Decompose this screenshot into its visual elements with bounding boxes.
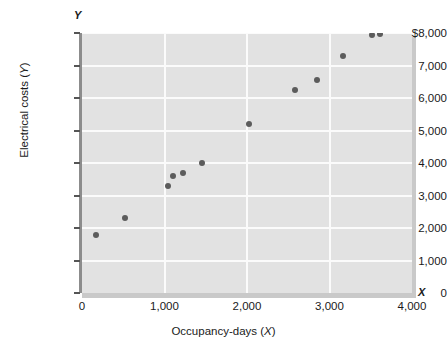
y-tick-label: 5,000 — [373, 125, 447, 137]
y-tick-mark — [74, 260, 80, 262]
data-point — [122, 215, 128, 221]
data-point — [340, 53, 346, 59]
y-tick-label: 0 — [373, 287, 447, 299]
x-tick-label: 3,000 — [315, 300, 344, 312]
y-tick-label: 2,000 — [373, 222, 447, 234]
y-tick-mark — [74, 162, 80, 164]
x-axis-line — [82, 293, 416, 298]
y-tick-label: 7,000 — [373, 60, 447, 72]
y-tick-label: 1,000 — [373, 255, 447, 267]
data-point — [314, 77, 320, 83]
x-tick-label: 1,000 — [150, 300, 179, 312]
y-tick-mark — [74, 65, 80, 67]
y-tick-mark — [74, 195, 80, 197]
y-tick-mark — [74, 97, 80, 99]
y-tick-label: $8,000 — [373, 27, 447, 39]
gridline-vertical — [246, 33, 248, 293]
data-point — [246, 121, 252, 127]
x-axis-title: Occupancy-days (X) — [0, 325, 447, 337]
data-point — [93, 232, 99, 238]
y-tick-mark — [74, 130, 80, 132]
y-tick-label: 4,000 — [373, 157, 447, 169]
data-point — [180, 170, 186, 176]
y-axis-symbol: Y — [74, 9, 81, 21]
y-tick-label: 6,000 — [373, 92, 447, 104]
plot-area — [82, 33, 412, 293]
data-point — [165, 183, 171, 189]
x-tick-label: 4,000 — [398, 300, 427, 312]
data-point — [292, 87, 298, 93]
y-tick-mark — [74, 32, 80, 34]
y-tick-mark — [74, 292, 80, 294]
data-point — [170, 173, 176, 179]
x-tick-label: 2,000 — [233, 300, 262, 312]
y-tick-label: 3,000 — [373, 190, 447, 202]
y-tick-mark — [74, 227, 80, 229]
y-axis-title: Electrical costs (Y) — [18, 20, 30, 200]
data-point — [199, 160, 205, 166]
x-tick-label: 0 — [79, 300, 85, 312]
scatter-plot-figure: Y X 01,0002,0003,0004,0005,0006,0007,000… — [0, 0, 447, 354]
gridline-vertical — [164, 33, 166, 293]
gridline-vertical — [329, 33, 331, 293]
